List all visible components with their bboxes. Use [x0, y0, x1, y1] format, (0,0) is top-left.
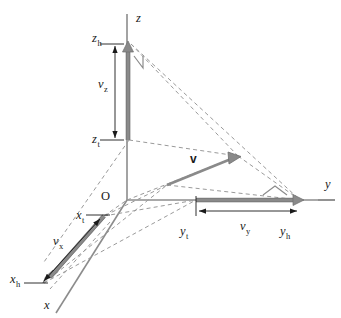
component-vector-vz	[123, 41, 134, 140]
component-vector-vy	[196, 195, 304, 206]
construction-lines	[44, 44, 300, 289]
x-tail-label: xt	[75, 208, 85, 225]
right-angle-marker-z	[134, 56, 143, 68]
vector-diagram-canvas: z y x O v vz zt zh vy yt yh vx xt xh	[0, 0, 341, 318]
vx-magnitude-label: vx	[53, 234, 64, 251]
vy-magnitude-label: vy	[240, 219, 251, 236]
origin-label: O	[101, 189, 110, 203]
axis-label-x: x	[43, 298, 50, 312]
axis-label-y: y	[323, 177, 331, 191]
axis-label-z: z	[135, 11, 141, 25]
x-head-label: xh	[9, 272, 21, 289]
right-angle-marker-y	[263, 186, 287, 195]
resultant-vector-v	[167, 152, 241, 185]
resultant-vector-label: v	[190, 152, 197, 166]
z-tail-label: zt	[91, 132, 100, 149]
y-tail-label: yt	[178, 224, 189, 241]
z-head-label: zh	[91, 31, 102, 48]
vz-magnitude-label: vz	[98, 77, 108, 94]
y-head-label: yh	[278, 224, 291, 241]
vector-diagram-figure: z y x O v vz zt zh vy yt yh vx xt xh	[0, 0, 341, 318]
